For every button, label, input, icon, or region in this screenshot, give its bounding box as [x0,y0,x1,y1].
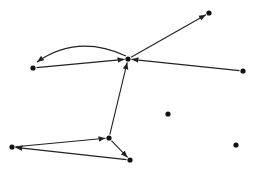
edge-B-to-A [37,46,126,62]
node-E [165,111,170,116]
node-C [206,10,211,15]
node-A [30,65,35,70]
edge-B-to-C [131,15,206,58]
edge-F-to-B [110,62,127,134]
node-F [106,135,111,140]
node-I [233,142,238,147]
node-B [125,56,130,61]
node-H [127,157,132,162]
node-G [9,144,14,149]
node-D [240,68,245,73]
directed-graph [0,0,254,170]
edge-A-to-B [36,59,124,67]
edge-H-to-G [15,147,126,159]
edges-layer [15,15,239,160]
edge-F-to-H [111,141,127,158]
edge-D-to-B [131,59,239,70]
edge-G-to-F [15,138,105,146]
nodes-layer [9,10,245,162]
